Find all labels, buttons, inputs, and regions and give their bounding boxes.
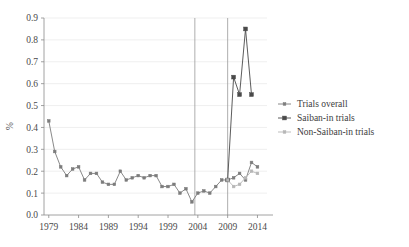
data-point [167,185,170,188]
x-tick-label: 2014 [248,222,267,232]
line-chart: 0.00.10.20.30.40.50.60.70.80.9 197919841… [0,0,409,247]
y-tick-label: 0.7 [26,57,38,67]
legend-marker-swatch [283,103,286,106]
data-point [226,179,229,182]
data-point [71,168,74,171]
x-axis-ticks: 19791984198919941999200420092014 [39,215,267,232]
series-2 [226,27,254,182]
data-point [47,120,50,123]
x-tick-label: 1984 [69,222,88,232]
data-point [95,172,98,175]
data-point [137,174,140,177]
data-point [244,27,248,31]
data-point [232,185,235,188]
data-point [179,192,182,195]
chart-legend: Trials overallSaiban-in trialsNon-Saiban… [278,99,375,137]
legend-label: Trials overall [297,99,348,109]
data-point [173,183,176,186]
data-point [244,176,247,179]
data-point [131,176,134,179]
y-tick-label: 0.6 [26,79,38,89]
y-axis-label: % [5,122,15,130]
data-point [214,185,217,188]
data-point [113,183,116,186]
x-tick-label: 2004 [188,222,207,232]
data-point [256,165,259,168]
y-axis-ticks: 0.00.10.20.30.40.50.60.70.80.9 [26,13,44,220]
data-point [191,201,194,204]
data-point [149,174,152,177]
legend-label: Saiban-in trials [297,113,355,123]
data-point [208,192,211,195]
data-point [161,185,164,188]
legend-marker-swatch [283,116,287,120]
data-point [238,172,241,175]
y-tick-label: 0.3 [26,145,38,155]
data-point [155,174,158,177]
data-point [220,179,223,182]
data-point [83,179,86,182]
x-tick-label: 1989 [99,222,118,232]
data-point [53,150,56,153]
data-point [77,165,80,168]
legend-item-3: Non-Saiban-in trials [278,127,375,137]
y-tick-label: 0.8 [26,35,38,45]
data-point [107,183,110,186]
y-tick-label: 0.5 [26,101,38,111]
data-point [185,187,188,190]
series-line [228,29,252,180]
chart-canvas: 0.00.10.20.30.40.50.60.70.80.9 197919841… [0,0,409,247]
data-point [101,181,104,184]
data-point [65,174,68,177]
data-point [250,93,254,97]
data-point [232,176,235,179]
data-point [250,161,253,164]
x-tick-label: 1994 [129,222,148,232]
data-point [256,172,259,175]
data-point [238,183,241,186]
reference-lines-group [195,18,228,215]
x-tick-label: 1999 [159,222,178,232]
legend-item-2: Saiban-in trials [278,113,355,123]
data-point [59,165,62,168]
legend-marker-swatch [283,131,286,134]
x-tick-label: 2009 [218,222,237,232]
legend-item-1: Trials overall [278,99,348,109]
data-point [125,179,128,182]
y-tick-label: 0.9 [26,13,38,23]
data-series-group [47,27,258,203]
y-tick-label: 0.0 [26,210,38,220]
data-point [232,75,236,79]
y-tick-label: 0.2 [26,167,38,177]
data-point [196,192,199,195]
data-point [143,176,146,179]
y-tick-label: 0.1 [26,189,38,199]
legend-label: Non-Saiban-in trials [297,127,375,137]
series-1 [47,120,258,204]
data-point [89,172,92,175]
data-point [119,170,122,173]
data-point [202,190,205,193]
x-tick-label: 1979 [39,222,58,232]
series-line [49,121,258,202]
data-point [250,170,253,173]
data-point [238,93,242,97]
y-tick-label: 0.4 [26,123,38,133]
